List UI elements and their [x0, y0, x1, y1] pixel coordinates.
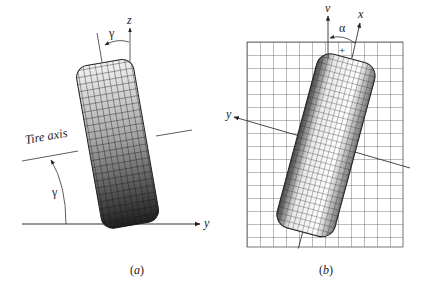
- y-axis-label-b: y: [226, 108, 231, 120]
- gamma-label-top: γ: [109, 27, 114, 39]
- v-axis-label: v: [325, 2, 330, 14]
- y-axis-label-a: y: [204, 217, 209, 229]
- panel-b: [234, 16, 410, 256]
- caption-b: (b): [319, 263, 333, 278]
- tire-a: [75, 58, 161, 231]
- plus-sign-label: +: [339, 44, 345, 56]
- tire-axis-line-right: [156, 130, 192, 136]
- tire-plane-line: [97, 33, 102, 62]
- gamma-label-left: γ: [52, 186, 57, 198]
- x-axis-label: x: [358, 8, 363, 20]
- alpha-label: α: [339, 22, 345, 34]
- gamma-arc-top: [105, 41, 129, 45]
- caption-a: (a): [130, 263, 144, 278]
- tire-axis-line-left: [22, 151, 78, 161]
- figure-canvas: [0, 0, 427, 286]
- z-axis-label: z: [127, 14, 132, 26]
